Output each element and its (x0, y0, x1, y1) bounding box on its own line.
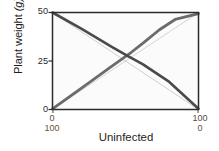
chart-figure (0, 0, 219, 151)
x-axis-label: Uninfected (52, 131, 200, 143)
x-tick-label-infected-right: 0 (189, 123, 211, 133)
x-tick-label-uninfected-right: 100 (189, 113, 211, 123)
y-tick-label-25: 25 (16, 56, 48, 66)
x-tick-label-uninfected-left: 0 (42, 113, 62, 123)
x-tick-label-infected-left: 100 (40, 123, 64, 133)
y-tick-label-50: 50 (16, 6, 48, 16)
